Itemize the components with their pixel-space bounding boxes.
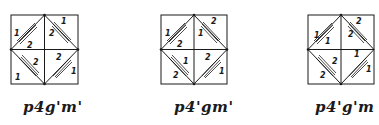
label-br-outer: 1 bbox=[219, 67, 225, 76]
label-br-inner: 1 bbox=[354, 50, 360, 59]
label-tr-outer: 2 bbox=[211, 17, 217, 26]
label-br-inner: 2 bbox=[205, 53, 211, 62]
label-bl-inner: 2 bbox=[33, 58, 39, 67]
label-tl-outer: 1 bbox=[165, 29, 171, 38]
label-br-outer: 1 bbox=[71, 67, 77, 76]
label-bl-outer: 1 bbox=[15, 73, 21, 82]
label-tr-outer: 2 bbox=[356, 17, 362, 26]
symmetry-diagram-1: 1 2 1 2 1 2 1 2 bbox=[11, 0, 79, 72]
symmetry-diagram-2: 1 2 2 1 2 1 1 2 bbox=[161, 0, 229, 72]
group-symbol-caption: p4g'm' bbox=[23, 98, 82, 116]
label-tl-inner: 2 bbox=[177, 40, 183, 49]
label-bl-inner: 1 bbox=[183, 57, 189, 66]
label-tr-inner: 2 bbox=[49, 29, 55, 38]
panel-3: 1 1 2 2 2 2 1 1 p4'g'm bbox=[308, 0, 379, 125]
label-br-inner: 2 bbox=[56, 53, 62, 62]
label-tl-outer: 1 bbox=[314, 31, 320, 40]
label-tl-inner: 2 bbox=[27, 41, 33, 50]
panel-2: 1 2 2 1 2 1 1 2 p4'gm' bbox=[161, 0, 229, 125]
label-tl-outer: 1 bbox=[14, 29, 20, 38]
group-symbol-caption: p4'g'm bbox=[315, 98, 374, 116]
panel-1: 1 2 1 2 1 2 1 2 p4g'm' bbox=[11, 0, 79, 125]
label-br-outer: 1 bbox=[366, 65, 372, 74]
group-symbol-caption: p4'gm' bbox=[174, 98, 233, 116]
label-tr-inner: 1 bbox=[198, 29, 204, 38]
label-tr-inner: 2 bbox=[348, 30, 354, 39]
symmetry-diagram-3: 1 1 2 2 2 2 1 1 bbox=[308, 0, 379, 72]
label-tr-outer: 1 bbox=[61, 17, 67, 26]
label-bl-outer: 2 bbox=[173, 71, 179, 80]
label-bl-outer: 2 bbox=[320, 71, 326, 80]
label-bl-inner: 2 bbox=[332, 57, 338, 66]
label-tl-inner: 1 bbox=[325, 37, 331, 46]
